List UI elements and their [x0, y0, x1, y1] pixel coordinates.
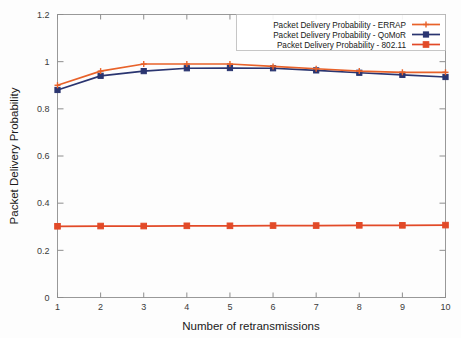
data-point-marker — [400, 223, 406, 229]
chart-figure: 00.20.40.60.811.2 12345678910 Number of … — [0, 0, 461, 338]
legend-label-2: Packet Delivery Probability - 802.11 — [277, 41, 407, 50]
y-tick-label: 0 — [44, 293, 49, 303]
x-tick-label: 5 — [227, 302, 232, 312]
data-point-marker — [98, 223, 104, 229]
chart-legend: Packet Delivery Probability - ERRAPPacke… — [237, 15, 446, 51]
x-tick-label: 2 — [98, 302, 103, 312]
x-tick-label: 3 — [141, 302, 146, 312]
data-point-marker — [227, 223, 233, 229]
data-point-marker — [423, 42, 429, 48]
data-point-marker — [270, 223, 276, 229]
y-tick-label: 0.2 — [37, 246, 50, 256]
x-tick-label: 10 — [440, 302, 450, 312]
line-chart: 00.20.40.60.811.2 12345678910 Number of … — [0, 0, 461, 338]
data-point-marker — [184, 223, 190, 229]
x-axis-title: Number of retransmissions — [182, 320, 320, 332]
data-point-marker — [423, 32, 428, 37]
data-point-marker — [55, 223, 61, 229]
x-tick-label: 1 — [55, 302, 60, 312]
data-point-marker — [356, 223, 362, 229]
series-line — [58, 225, 446, 226]
x-tick-label: 7 — [314, 302, 319, 312]
legend-label-1: Packet Delivery Probability - QoMoR — [273, 31, 406, 40]
data-point-marker — [443, 222, 449, 228]
data-point-marker — [141, 223, 147, 229]
y-tick-label: 0.4 — [37, 198, 50, 208]
x-tick-label: 9 — [400, 302, 405, 312]
y-axis-title: Packet Delivery Probability — [8, 87, 20, 224]
legend-label-0: Packet Delivery Probability - ERRAP — [273, 21, 406, 30]
y-tick-label: 0.8 — [37, 104, 50, 114]
y-tick-label: 1.2 — [37, 10, 50, 20]
x-tick-label: 4 — [184, 302, 189, 312]
data-point-marker — [313, 223, 319, 229]
x-tick-label: 8 — [357, 302, 362, 312]
y-tick-label: 1 — [44, 57, 49, 67]
y-tick-label: 0.6 — [37, 151, 50, 161]
data-point-marker — [141, 69, 146, 74]
x-tick-label: 6 — [271, 302, 276, 312]
